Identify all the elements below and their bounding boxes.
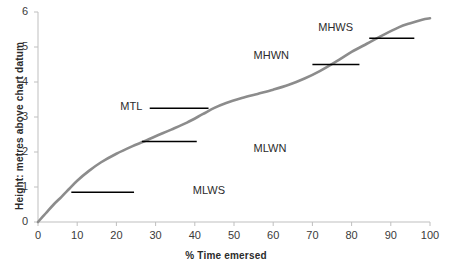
x-tick-label: 20	[101, 229, 131, 241]
x-tick-label: 70	[297, 229, 327, 241]
x-tick-label: 10	[62, 229, 92, 241]
y-tick-label: 6	[12, 5, 28, 17]
marker-label-mhws: MHWS	[318, 21, 353, 33]
x-tick-label: 60	[258, 229, 288, 241]
marker-label-mhwn: MHWN	[254, 49, 289, 61]
marker-label-mlws: MLWS	[193, 184, 225, 196]
marker-label-mtl: MTL	[120, 100, 142, 112]
marker-label-mlwn: MLWN	[254, 142, 287, 154]
x-tick-label: 90	[376, 229, 406, 241]
y-tick-label: 0	[12, 215, 28, 227]
x-axis-title: % Time emersed	[0, 250, 452, 261]
tidal-exposure-chart: 0123456 0102030405060708090100 MLWSMLWNM…	[0, 0, 452, 270]
x-tick-label: 40	[180, 229, 210, 241]
axis-group	[34, 12, 430, 226]
x-tick-label: 0	[23, 229, 53, 241]
x-tick-label: 80	[337, 229, 367, 241]
x-tick-label: 30	[141, 229, 171, 241]
y-axis-title: Height: metres above chart datum	[14, 42, 25, 210]
marker-segments-group	[71, 38, 414, 192]
x-tick-label: 50	[219, 229, 249, 241]
x-tick-label: 100	[415, 229, 445, 241]
